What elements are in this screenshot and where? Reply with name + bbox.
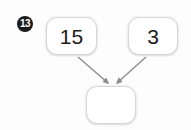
arrow-from-b-to-result (117, 57, 146, 83)
problem-number-badge: 13 (17, 16, 33, 32)
operand-a-value: 15 (60, 26, 83, 47)
operand-box-a[interactable]: 15 (46, 17, 97, 55)
operand-box-b[interactable]: 3 (128, 17, 178, 55)
operand-b-value: 3 (147, 26, 159, 47)
answer-box-result[interactable] (86, 86, 136, 124)
arrow-from-a-to-result (78, 57, 108, 83)
worksheet-problem-canvas: 13 15 3 (0, 0, 191, 130)
